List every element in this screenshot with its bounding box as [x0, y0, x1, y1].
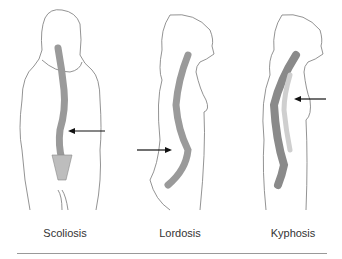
kyphosis-label: Kyphosis — [258, 227, 328, 239]
scoliosis-label: Scoliosis — [30, 227, 100, 239]
lordosis-spine — [168, 55, 188, 185]
scoliosis-arrow — [68, 128, 105, 134]
spine-conditions-illustration — [0, 0, 342, 259]
lordosis-arrow — [137, 147, 172, 153]
scoliosis-spine — [52, 48, 72, 180]
lordosis-figure — [150, 15, 214, 210]
lordosis-label: Lordosis — [145, 227, 215, 239]
divider-rule — [17, 253, 327, 254]
kyphosis-spine — [274, 55, 296, 185]
